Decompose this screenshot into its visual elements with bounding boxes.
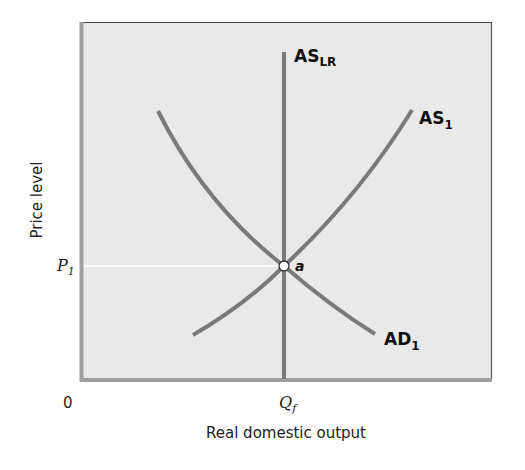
origin-label: 0 [63,394,73,412]
chart: ASLR AS1 AD1 a 0 Qf P1 Real domestic out… [0,0,525,470]
point-a-label: a [295,258,304,274]
y-axis-title: Price level [28,161,46,238]
p1-tick-label: P1 [56,256,75,278]
qf-tick-label: Qf [279,393,298,415]
equilibrium-point-a [279,261,289,271]
x-axis-title: Real domestic output [206,424,366,442]
